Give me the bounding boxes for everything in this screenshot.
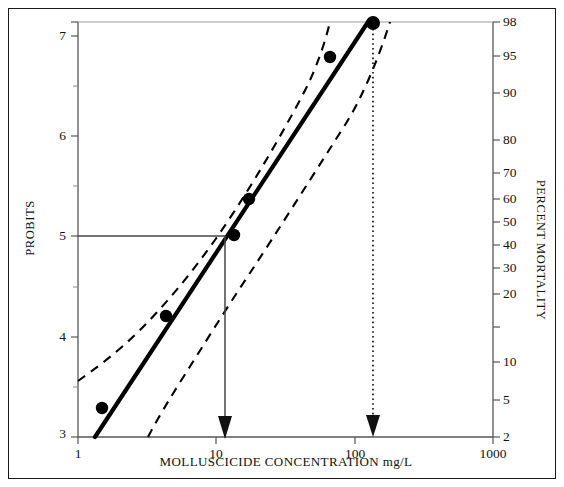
y-tick-label-right-2: 2 [503,429,510,445]
probit-regression-figure: 7 6 5 4 3 98 95 90 80 70 60 50 40 30 20 … [0,0,564,487]
y-tick-label-left-4: 4 [59,329,66,345]
data-point [160,310,172,322]
y-tick-label-right-95: 95 [503,48,517,64]
y-tick-label-left-3: 3 [59,426,66,442]
y-tick-label-right-5: 5 [503,392,510,408]
y-tick-label-right-70: 70 [503,165,517,181]
x-tick-label-1: 1 [75,446,82,462]
y-tick-label-left-6: 6 [59,128,66,144]
lc98-arrow [366,24,380,437]
lower-confidence-band [148,22,390,437]
y-axis-left-ticks [71,22,78,437]
y-tick-label-right-30: 30 [503,260,517,276]
data-point [96,402,108,414]
y-tick-label-right-60: 60 [503,191,517,207]
plot-axes [78,22,493,437]
data-point [243,193,255,205]
y-tick-label-right-40: 40 [503,237,517,253]
data-point [366,16,380,30]
y-tick-label-right-50: 50 [503,214,517,230]
data-point [324,51,336,63]
upper-confidence-band [78,22,330,381]
y-axis-right-ticks [493,22,500,437]
x-axis-ticks [78,437,493,444]
data-points [96,16,380,414]
data-point [228,229,240,241]
y-axis-title-left: PROBITS [23,200,38,256]
chart-canvas [0,0,564,487]
x-tick-label-1000: 1000 [480,446,507,462]
y-axis-title-right: PERCENT MORTALITY [533,180,548,321]
y-tick-label-right-80: 80 [503,132,517,148]
y-tick-label-left-7: 7 [59,28,66,44]
lc50-arrow [218,236,232,439]
y-tick-label-right-98: 98 [503,14,517,30]
x-axis-title: MOLLUSCICIDE CONCENTRATION mg/L [160,454,413,470]
y-tick-label-right-20: 20 [503,286,517,302]
y-tick-label-right-90: 90 [503,85,517,101]
y-tick-label-right-10: 10 [503,354,517,370]
y-tick-label-left-5: 5 [59,228,66,244]
